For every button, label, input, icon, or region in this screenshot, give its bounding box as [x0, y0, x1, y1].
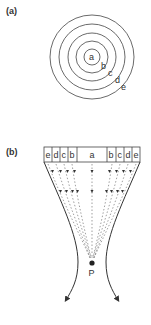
cell-d-left: d: [54, 150, 59, 160]
cell-b-right: b: [109, 150, 114, 160]
focus-point: [89, 260, 94, 265]
ring-label-b: b: [101, 61, 106, 71]
cell-e-right: e: [134, 150, 139, 160]
diagram-canvas: a b c d e e d c b a b c d e: [0, 0, 151, 325]
converging-rays: [48, 164, 136, 258]
cell-b-left: b: [70, 150, 75, 160]
focus-label: P: [89, 268, 95, 278]
ring-label-d: d: [115, 75, 120, 85]
cell-c-right: c: [118, 150, 123, 160]
cell-d-right: d: [126, 150, 131, 160]
cell-e-left: e: [46, 150, 51, 160]
ring-label-e: e: [121, 82, 126, 92]
ring-label-a: a: [89, 52, 94, 62]
cell-c-left: c: [62, 150, 67, 160]
ray-arrowheads: [51, 170, 132, 193]
cell-a: a: [90, 150, 95, 160]
ring-label-c: c: [108, 68, 113, 78]
